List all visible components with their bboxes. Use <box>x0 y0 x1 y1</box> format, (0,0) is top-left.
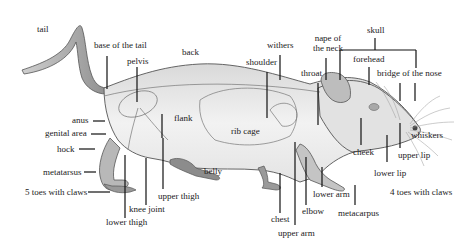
label-chest: chest <box>271 214 290 224</box>
tail-shape <box>22 26 108 94</box>
label-shoulder: shoulder <box>246 57 277 67</box>
label-upper-arm: upper arm <box>278 228 315 238</box>
label-5-toes-with-claws: 5 toes with claws <box>25 187 87 197</box>
label-hock: hock <box>57 144 75 154</box>
label-cheek: cheek <box>353 147 374 157</box>
label-metatarsus: metatarsus <box>43 167 82 177</box>
label-rib-cage: rib cage <box>231 126 260 136</box>
label-upper-thigh: upper thigh <box>158 191 199 201</box>
label-lower-thigh: lower thigh <box>106 217 147 227</box>
label-bridge-of-the-nose: bridge of the nose <box>377 68 442 78</box>
label-base-of-the-tail: base of the tail <box>94 40 147 50</box>
label-tail: tail <box>37 24 49 34</box>
label-flank: flank <box>174 113 193 123</box>
label-whiskers: whiskers <box>411 130 443 140</box>
label-forehead: forehead <box>353 54 384 64</box>
label-back: back <box>182 47 199 57</box>
label-skull: skull <box>367 25 385 35</box>
label-lower-arm: lower arm <box>313 189 350 199</box>
label-withers: withers <box>267 40 294 50</box>
label-genital-area: genital area <box>45 128 87 138</box>
label-nape-line1: nape of <box>306 33 350 43</box>
label-throat: throat <box>301 68 322 78</box>
label-4-toes-with-claws: 4 toes with claws <box>390 187 452 197</box>
label-pelvis: pelvis <box>127 56 149 66</box>
label-knee-joint: knee joint <box>129 204 165 214</box>
label-anus: anus <box>72 115 89 125</box>
label-belly: belly <box>204 166 222 176</box>
label-elbow: elbow <box>302 206 324 216</box>
label-nape-line2: the neck <box>306 43 350 53</box>
label-metacarpus: metacarpus <box>338 208 379 218</box>
eye-shape <box>369 104 379 111</box>
label-lower-lip: lower lip <box>374 168 406 178</box>
rat-anatomy-diagram: tail base of the tail back pelvis wither… <box>0 0 471 251</box>
label-upper-lip: upper lip <box>398 150 430 160</box>
